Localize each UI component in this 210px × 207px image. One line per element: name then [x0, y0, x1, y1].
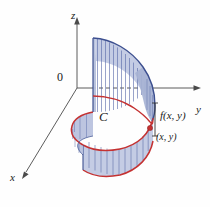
line-integral-figure: z y x 0 C f(x, y) (x, y) [0, 0, 210, 207]
z-axis-label: z [71, 10, 75, 21]
y-axis-label: y [196, 104, 201, 115]
y-axis-arrowhead [194, 85, 202, 91]
point-xy-marker [147, 125, 152, 130]
surface-lower-fill [83, 118, 153, 176]
x-axis [26, 88, 77, 172]
surface-lower [83, 118, 153, 176]
origin-label: 0 [57, 71, 63, 83]
x-axis-arrowhead [22, 172, 29, 180]
point-xy-label: (x, y) [156, 132, 177, 142]
curve-c-label: C [99, 110, 108, 123]
figure-canvas [0, 0, 210, 207]
height-function-label: f(x, y) [160, 110, 186, 121]
x-axis-label: x [10, 172, 15, 183]
